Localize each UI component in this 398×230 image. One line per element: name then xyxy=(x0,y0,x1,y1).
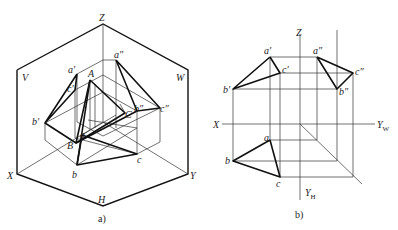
label-c: c xyxy=(276,178,281,189)
label-z: Z xyxy=(296,27,302,38)
label-v-plane: V xyxy=(22,72,30,83)
projection-diagram: Z V W X Y H a′ A a″ c′ b′ b″ c″ C a B b … xyxy=(0,0,398,230)
label-x: X xyxy=(6,170,14,181)
label-c-dprime: c″ xyxy=(355,66,364,77)
construction-lines xyxy=(233,30,353,177)
label-b: b xyxy=(72,169,77,180)
label-y: Y xyxy=(190,170,197,181)
figure-b-orthographic: Z X YW YH a′ c′ b′ a″ c″ b″ a b c b) xyxy=(212,27,390,221)
label-c: c xyxy=(137,154,142,165)
label-a: a xyxy=(80,129,85,140)
label-a-dprime: a″ xyxy=(313,45,323,56)
label-A: A xyxy=(87,68,95,79)
label-C: C xyxy=(125,109,132,120)
label-a-prime: a′ xyxy=(264,45,272,56)
label-b-dprime: b″ xyxy=(134,103,144,114)
label-yw: YW xyxy=(377,119,390,133)
figure-a-isometric: Z V W X Y H a′ A a″ c′ b′ b″ c″ C a B b … xyxy=(6,12,197,225)
label-b: b xyxy=(225,155,230,166)
label-b-prime: b′ xyxy=(32,116,40,127)
label-b-dprime: b″ xyxy=(339,86,349,97)
label-w-plane: W xyxy=(176,72,186,83)
plane-frame xyxy=(17,24,188,206)
label-x: X xyxy=(212,119,220,130)
label-z: Z xyxy=(99,12,105,23)
label-yh: YH xyxy=(305,187,316,201)
label-a-dprime: a″ xyxy=(114,49,124,60)
label-c-dprime: c″ xyxy=(160,103,169,114)
caption-a: a) xyxy=(98,213,106,225)
label-c-prime: c′ xyxy=(67,83,74,94)
label-c-prime: c′ xyxy=(282,64,289,75)
caption-b: b) xyxy=(295,209,303,221)
object-edges xyxy=(233,57,353,177)
label-a-prime: a′ xyxy=(68,64,76,75)
label-B: B xyxy=(67,140,73,151)
label-h-plane: H xyxy=(97,194,106,205)
label-a: a xyxy=(264,132,269,143)
label-b-prime: b′ xyxy=(223,84,231,95)
